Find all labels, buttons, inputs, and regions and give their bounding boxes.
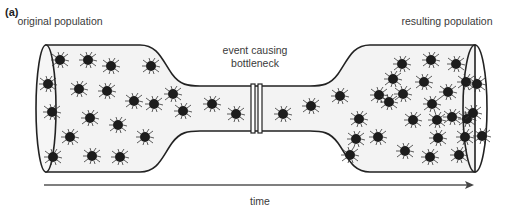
bottleneck-diagram	[0, 0, 509, 209]
time-arrow	[44, 181, 474, 189]
